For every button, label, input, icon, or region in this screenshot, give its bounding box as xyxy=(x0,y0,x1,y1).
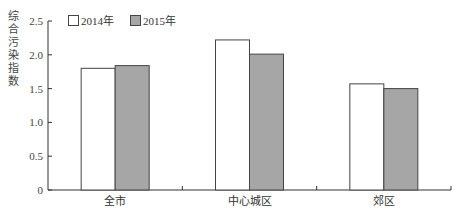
x-tick-label: 全市 xyxy=(104,194,126,208)
bar-2014年-郊区 xyxy=(350,84,384,190)
bar-2015年-中心城区 xyxy=(250,54,284,190)
bar-2015年-全市 xyxy=(115,66,149,190)
y-tick-label: 1.0 xyxy=(29,116,43,128)
y-tick-label: 2.5 xyxy=(29,15,43,27)
y-tick-label: 0.5 xyxy=(29,150,43,162)
y-tick-label: 1.5 xyxy=(29,83,43,95)
bar-2014年-中心城区 xyxy=(216,40,250,190)
bar-chart: 00.51.01.52.02.5全市中心城区郊区 xyxy=(0,0,474,219)
bar-2015年-郊区 xyxy=(384,89,418,190)
bar-2014年-全市 xyxy=(81,68,115,190)
x-tick-label: 中心城区 xyxy=(228,195,272,208)
x-tick-label: 郊区 xyxy=(373,195,395,208)
y-tick-label: 2.0 xyxy=(29,49,43,61)
y-tick-label: 0 xyxy=(38,184,44,196)
